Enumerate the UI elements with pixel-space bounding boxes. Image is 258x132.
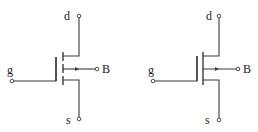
drain-terminal xyxy=(217,14,221,18)
body-arrow-icon xyxy=(75,67,79,71)
body-arrow-icon xyxy=(215,67,219,71)
gate-terminal xyxy=(10,79,14,83)
mosfet-diagram: d g B s d g xyxy=(0,0,258,132)
drain-wire xyxy=(203,18,219,56)
drain-label: d xyxy=(206,9,212,23)
gate-label: g xyxy=(148,63,154,77)
gate-terminal xyxy=(151,79,155,83)
body-label: B xyxy=(102,62,110,76)
body-terminal xyxy=(95,67,99,71)
gate-wire xyxy=(14,57,56,81)
mosfet-depletion-symbol: d g B s xyxy=(148,9,251,127)
source-label: s xyxy=(205,113,210,127)
source-label: s xyxy=(66,113,71,127)
drain-label: d xyxy=(64,9,70,23)
body-terminal xyxy=(236,67,240,71)
mosfet-enhancement-symbol: d g B s xyxy=(7,9,110,127)
drain-terminal xyxy=(77,14,81,18)
source-wire xyxy=(63,80,79,117)
drain-wire xyxy=(63,18,79,56)
source-terminal xyxy=(217,118,221,122)
body-label: B xyxy=(243,62,251,76)
source-terminal xyxy=(77,117,81,121)
gate-label: g xyxy=(7,63,13,77)
gate-wire xyxy=(155,56,197,81)
